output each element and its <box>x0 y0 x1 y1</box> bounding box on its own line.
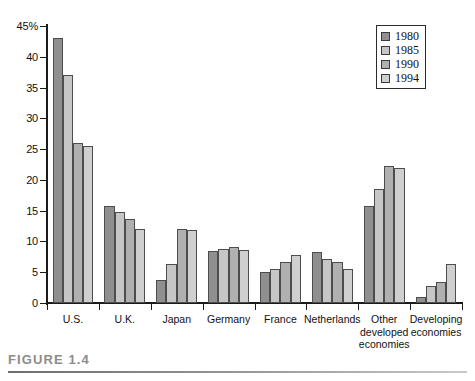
legend-item-label: 1990 <box>395 58 419 70</box>
caption-divider <box>8 371 467 373</box>
y-axis-tick <box>40 272 47 273</box>
bar <box>322 259 332 303</box>
bar <box>270 269 280 303</box>
y-axis-tick-label: 15 <box>0 206 38 217</box>
bar <box>73 143 83 303</box>
y-axis-tick-label: 30 <box>0 113 38 124</box>
bar <box>374 189 384 303</box>
y-axis-tick <box>40 149 47 150</box>
y-axis-tick-label: 0 <box>0 298 38 309</box>
legend-item-label: 1994 <box>395 72 419 84</box>
bar <box>291 255 301 303</box>
x-axis-tick <box>255 304 256 310</box>
bar-group <box>203 26 255 303</box>
bar <box>104 206 114 303</box>
legend-item: 1994 <box>381 71 419 85</box>
bar <box>416 297 426 303</box>
bar <box>446 264 456 303</box>
y-axis-tick <box>40 241 47 242</box>
bar <box>364 206 374 303</box>
bar <box>384 166 394 303</box>
legend-swatch-icon <box>381 32 390 41</box>
bar <box>166 264 176 303</box>
bar-group <box>47 26 99 303</box>
bar <box>332 262 342 303</box>
bar <box>394 168 404 303</box>
bar <box>125 219 135 303</box>
bar <box>260 272 270 303</box>
legend-item-label: 1985 <box>395 44 419 56</box>
bar <box>280 262 290 303</box>
x-axis-tick <box>151 304 152 310</box>
bar-group <box>99 26 151 303</box>
bar <box>312 252 322 303</box>
y-axis-tick-label: 35 <box>0 83 38 94</box>
bar <box>436 282 446 303</box>
y-axis-tick <box>40 118 47 119</box>
bar <box>218 249 228 303</box>
chart-legend: 1980198519901994 <box>376 25 426 89</box>
y-axis-tick-label: 40 <box>0 52 38 63</box>
y-axis-tick-label: 25 <box>0 144 38 155</box>
figure-caption-label: FIGURE 1.4 <box>8 352 90 367</box>
y-axis-tick <box>40 57 47 58</box>
bar <box>239 250 249 303</box>
x-axis-tick <box>99 304 100 310</box>
x-axis-tick-label: Developing economies <box>398 313 474 338</box>
bar <box>53 38 63 303</box>
y-axis-tick <box>40 211 47 212</box>
y-axis-tick <box>40 303 47 304</box>
bar <box>83 146 93 303</box>
bar <box>63 75 73 303</box>
y-axis-tick <box>40 180 47 181</box>
y-axis-tick-label: 5 <box>0 267 38 278</box>
y-axis-tick-label: 10 <box>0 236 38 247</box>
y-axis-tick <box>40 26 47 27</box>
x-axis-tick <box>462 304 463 310</box>
legend-swatch-icon <box>381 46 390 55</box>
x-axis-tick <box>203 304 204 310</box>
bar-group <box>306 26 358 303</box>
legend-swatch-icon <box>381 74 390 83</box>
legend-item: 1990 <box>381 57 419 71</box>
bar <box>208 251 218 303</box>
bar <box>135 229 145 303</box>
bar <box>156 280 166 303</box>
legend-swatch-icon <box>381 60 390 69</box>
legend-item: 1980 <box>381 29 419 43</box>
x-axis-tick <box>306 304 307 310</box>
bar <box>343 269 353 303</box>
bar-group <box>151 26 203 303</box>
bar <box>229 247 239 303</box>
bar <box>177 229 187 303</box>
y-axis-tick-label: 20 <box>0 175 38 186</box>
bar <box>187 230 197 303</box>
figure-container: 051015202530354045% U.S.U.K.JapanGermany… <box>0 0 475 381</box>
x-axis-tick <box>410 304 411 310</box>
legend-item: 1985 <box>381 43 419 57</box>
bar-group <box>255 26 307 303</box>
legend-item-label: 1980 <box>395 30 419 42</box>
bar <box>115 212 125 303</box>
x-axis-tick <box>47 304 48 310</box>
y-axis-tick <box>40 88 47 89</box>
y-axis-tick-label: 45% <box>0 21 38 32</box>
x-axis-tick <box>358 304 359 310</box>
bar <box>426 286 436 303</box>
